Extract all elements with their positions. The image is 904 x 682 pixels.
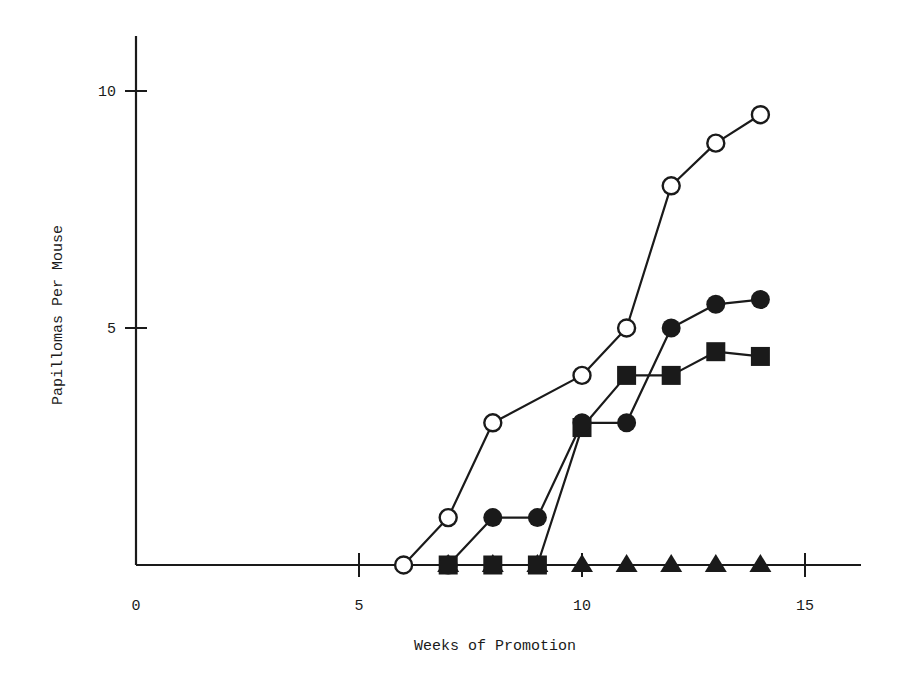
open-circle-markers [395,106,769,573]
open-circle-marker [574,367,591,384]
filled-square-marker [751,347,770,366]
filled-circle-marker [751,290,770,309]
filled-circle-marker [706,295,725,314]
x-tick-label: 15 [796,598,814,615]
y-axis-label: Papillomas Per Mouse [50,225,67,405]
open-circle-marker [752,106,769,123]
filled-square-marker [617,366,636,385]
filled-circle-marker [573,413,592,432]
papillomas-chart: 051015510 Weeks of Promotion Papillomas … [0,0,904,682]
series-layer [395,106,771,574]
open-circle-marker [395,557,412,574]
filled-circle-marker [617,413,636,432]
open-circle-marker [707,135,724,152]
filled-circle-marker [662,319,681,338]
filled-square-markers [439,342,770,574]
y-tick-label: 10 [98,84,116,101]
x-tick-label: 5 [354,598,363,615]
filled-square-marker [662,366,681,385]
filled-circle-marker [483,508,502,527]
open-circle-marker [663,177,680,194]
filled-square-line [448,352,760,565]
filled-triangle-marker [660,554,682,572]
filled-square-marker [483,556,502,575]
filled-triangle-marker [616,554,638,572]
filled-triangle-marker [705,554,727,572]
x-tick-label: 10 [573,598,591,615]
open-circle-line [404,115,761,565]
open-circle-marker [484,414,501,431]
x-axis-label: Weeks of Promotion [414,638,576,655]
open-circle-marker [440,509,457,526]
filled-triangle-marker [571,554,593,572]
x-tick-label: 0 [131,598,140,615]
filled-square-marker [528,556,547,575]
filled-circle-marker [528,508,547,527]
filled-circle-marker [439,556,458,575]
filled-triangle-marker [749,554,771,572]
open-circle-marker [618,320,635,337]
y-tick-label: 5 [107,321,116,338]
filled-square-marker [706,342,725,361]
